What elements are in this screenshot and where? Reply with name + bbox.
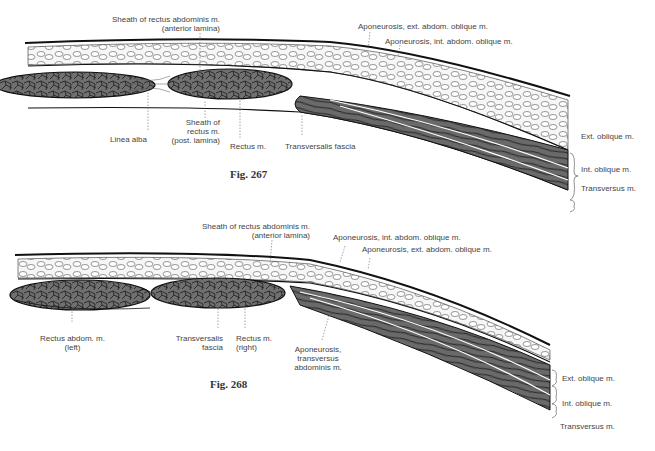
label-line: (anterior lamina) [110,24,220,33]
label-rectus-left: Rectus abdom. m. (left) [30,334,115,352]
label-line: (anterior lamina) [180,231,310,240]
label-line: Aponeurosis, [288,345,348,354]
label-line: Rectus m. [236,334,272,343]
label-line: Sheath of rectus abdominis m. [180,222,310,231]
label-rectus: Rectus m. [230,142,266,151]
label-sheath-post: Sheath of rectus m. (post. lamina) [160,118,220,145]
label-line: (right) [236,343,272,352]
label-line: rectus m. [160,127,220,136]
figure-caption-267: Fig. 267 [230,168,267,180]
label-line: Rectus abdom. m. [30,334,115,343]
label-apo-ext-268: Aponeurosis, ext. abdom. oblique m. [362,245,492,254]
label-line: abdominis m. [288,363,348,372]
label-apo-int: Aponeurosis, int. abdom. oblique m. [385,37,513,46]
label-sheath-anterior-268: Sheath of rectus abdominis m. (anterior … [180,222,310,240]
figure-caption-268: Fig. 268 [210,378,247,390]
label-transversalis-268: Transversalis fascia [160,334,223,352]
fig268-drawing [10,253,550,410]
label-apo-ext: Aponeurosis, ext. abdom. oblique m. [358,22,488,31]
label-ext-oblique-268: Ext. oblique m. [562,374,615,383]
anatomy-illustration [0,0,655,451]
label-line: fascia [160,343,223,352]
label-line: Sheath of rectus abdominis m. [110,15,220,24]
label-int-oblique-268: Int. oblique m. [562,399,612,408]
label-sheath-anterior: Sheath of rectus abdominis m. (anterior … [110,15,220,33]
fig267-drawing [0,39,570,190]
label-line: Sheath of [160,118,220,127]
label-rectus-right: Rectus m. (right) [236,334,272,352]
label-transversus-268: Transversus m. [560,422,615,431]
label-apo-int-268: Aponeurosis, int. abdom. oblique m. [333,233,461,242]
label-transversalis: Transversalis fascia [285,142,355,151]
label-linea-alba: Linea alba [110,135,147,144]
label-transversus: Transversus m. [581,184,636,193]
label-line: Transversalis [160,334,223,343]
label-line: (left) [30,343,115,352]
label-line: (post. lamina) [160,136,220,145]
label-ext-oblique: Ext. oblique m. [581,132,634,141]
label-line: transversus [288,354,348,363]
label-apo-transversus: Aponeurosis, transversus abdominis m. [288,345,348,372]
label-int-oblique: Int. oblique m. [581,165,631,174]
